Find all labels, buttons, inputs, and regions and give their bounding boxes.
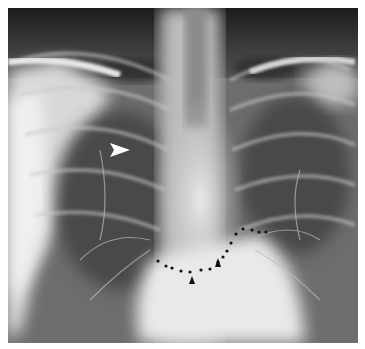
dotted-contour <box>8 8 358 343</box>
black-arrowhead-icon <box>189 276 195 284</box>
chest-xray-image <box>8 8 358 343</box>
black-arrowhead-icon <box>215 258 221 267</box>
